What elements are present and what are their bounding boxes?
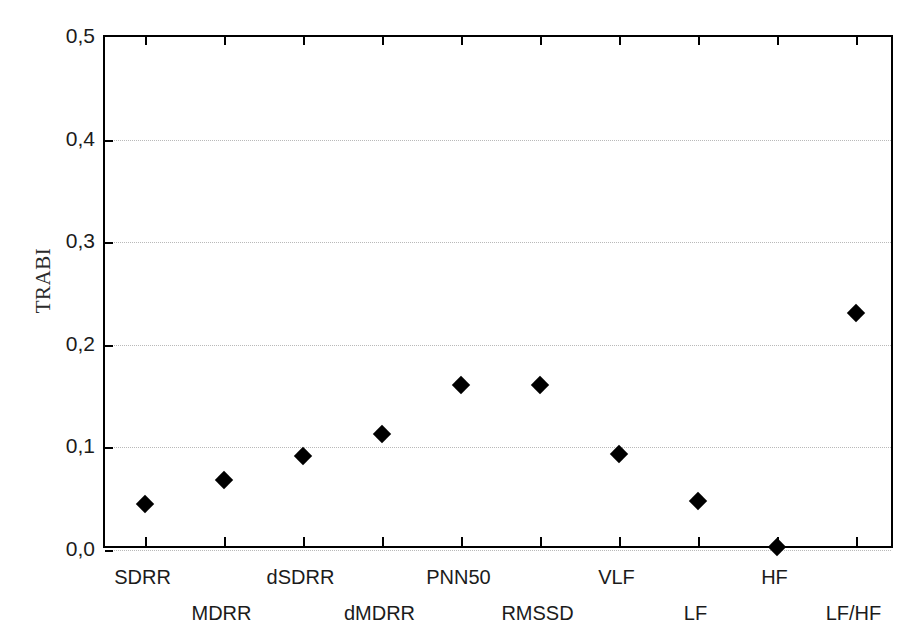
data-point	[846, 304, 864, 322]
x-axis-category-label: PNN50	[426, 567, 490, 587]
y-axis-tick-label: 0,2	[49, 332, 95, 353]
x-axis-category-label: SDRR	[114, 567, 171, 587]
y-axis-tick-label: 0,4	[49, 127, 95, 148]
x-axis-tick	[540, 537, 542, 546]
x-axis-category-label: LF	[684, 603, 707, 623]
data-point	[688, 492, 706, 510]
x-axis-tick-top	[382, 37, 384, 45]
y-axis-tick	[105, 140, 113, 142]
y-axis-tick-labels: 0,00,10,20,30,40,5	[40, 35, 95, 548]
x-axis-tick	[224, 537, 226, 546]
x-axis-tick-top	[303, 37, 305, 45]
x-axis-tick	[698, 537, 700, 546]
y-axis-tick	[105, 345, 113, 347]
x-axis-tick-top	[540, 37, 542, 45]
data-point	[135, 495, 153, 513]
x-axis-tick	[303, 537, 305, 546]
y-axis-tick-label: 0,1	[49, 435, 95, 456]
chart-figure: TRABI 0,00,10,20,30,40,5 SDRRMDRRdSDRRdM…	[0, 0, 909, 637]
plot-area	[103, 35, 893, 548]
x-axis-tick-top	[619, 37, 621, 45]
x-axis-category-label: RMSSD	[501, 603, 573, 623]
y-axis-tick-label: 0,3	[49, 230, 95, 251]
y-axis-tick	[105, 447, 113, 449]
y-axis-tick-label: 0,5	[49, 25, 95, 46]
gridline	[105, 345, 891, 346]
x-axis-tick-top	[777, 37, 779, 45]
x-axis-tick-top	[461, 37, 463, 45]
x-axis-category-label: dMDRR	[344, 603, 415, 623]
x-axis-tick	[145, 537, 147, 546]
x-axis-category-label: LF/HF	[826, 603, 882, 623]
x-axis-category-labels: SDRRMDRRdSDRRdMDRRPNN50RMSSDVLFLFHFLF/HF	[0, 548, 909, 637]
x-axis-category-label: VLF	[598, 567, 635, 587]
gridline	[105, 447, 891, 448]
x-axis-tick	[461, 537, 463, 546]
x-axis-tick	[619, 537, 621, 546]
x-axis-tick	[382, 537, 384, 546]
y-axis-tick	[105, 242, 113, 244]
data-point	[293, 446, 311, 464]
x-axis-category-label: MDRR	[192, 603, 252, 623]
x-axis-category-label: dSDRR	[267, 567, 335, 587]
data-point	[451, 376, 469, 394]
x-axis-tick-top	[224, 37, 226, 45]
gridline	[105, 140, 891, 141]
data-point	[214, 471, 232, 489]
x-axis-tick	[856, 537, 858, 546]
x-axis-tick-top	[856, 37, 858, 45]
x-axis-tick-top	[698, 37, 700, 45]
x-axis-tick-top	[145, 37, 147, 45]
x-axis-category-label: HF	[761, 567, 788, 587]
gridline	[105, 242, 891, 243]
data-point	[372, 425, 390, 443]
data-point	[530, 376, 548, 394]
